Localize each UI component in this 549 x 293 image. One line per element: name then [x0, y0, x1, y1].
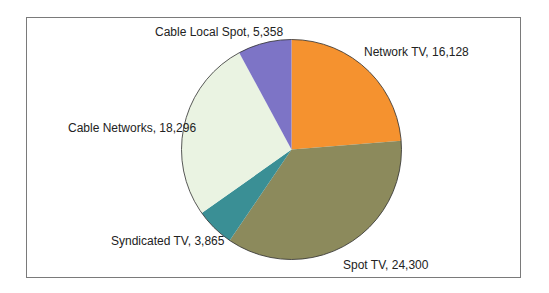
label-spot-tv: Spot TV, 24,300	[343, 258, 428, 272]
pie-chart	[0, 0, 549, 293]
label-cable-local-spot: Cable Local Spot, 5,358	[155, 25, 283, 39]
label-network-tv: Network TV, 16,128	[364, 45, 469, 59]
label-syndicated-tv: Syndicated TV, 3,865	[111, 234, 224, 248]
label-cable-networks: Cable Networks, 18,296	[68, 121, 196, 135]
